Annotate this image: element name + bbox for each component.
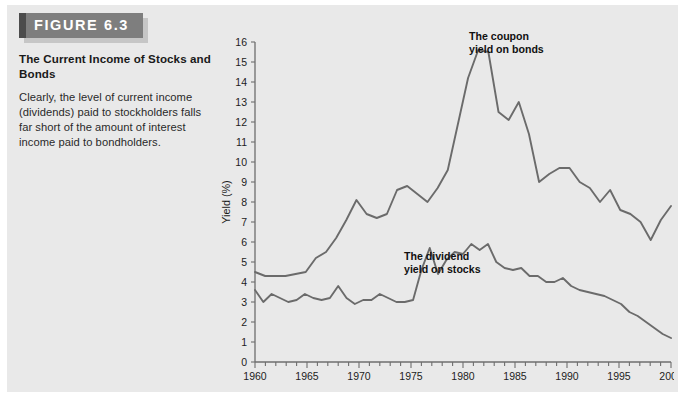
y-tick-label: 11 <box>236 136 247 148</box>
y-tick-label: 3 <box>241 296 247 308</box>
figure-number-banner: FIGURE 6.3 <box>19 13 147 40</box>
svg-text:yield on bonds: yield on bonds <box>469 43 544 55</box>
figure-description: Clearly, the level of current income (di… <box>19 90 217 150</box>
figure-title: The Current Income of Stocks and Bonds <box>19 51 217 81</box>
figure-number-label: FIGURE 6.3 <box>34 17 129 33</box>
y-tick-label: 4 <box>241 276 247 288</box>
y-tick-label: 10 <box>235 156 247 168</box>
svg-text:yield on stocks: yield on stocks <box>404 263 481 275</box>
bond-annotation: The coupon yield on bonds <box>469 30 544 55</box>
x-axis-title: Year <box>452 386 474 387</box>
y-axis: 012345678910111213141516 <box>235 36 255 368</box>
y-tick-label: 0 <box>241 356 247 368</box>
bond-yield-line <box>255 50 671 276</box>
x-tick-label: 1975 <box>399 370 423 382</box>
x-tick-label: 1970 <box>347 370 371 382</box>
figure-caption-block: FIGURE 6.3 The Current Income of Stocks … <box>19 13 217 150</box>
y-tick-label: 9 <box>241 176 247 188</box>
figure-panel: FIGURE 6.3 The Current Income of Stocks … <box>7 5 678 392</box>
figure-banner-accent-bar <box>19 13 26 38</box>
y-tick-label: 7 <box>241 216 247 228</box>
svg-text:The dividend: The dividend <box>404 250 469 262</box>
x-tick-label: 1980 <box>451 370 475 382</box>
y-tick-label: 6 <box>241 236 247 248</box>
x-tick-label: 2000 <box>659 370 674 382</box>
y-tick-label: 15 <box>235 56 247 68</box>
y-tick-label: 13 <box>235 96 247 108</box>
y-tick-label: 2 <box>241 316 247 328</box>
x-tick-label: 1990 <box>555 370 579 382</box>
y-tick-label: 16 <box>235 36 247 48</box>
y-tick-label: 8 <box>241 196 247 208</box>
x-tick-label: 1965 <box>295 370 319 382</box>
x-axis: 196019651970197519801985199019952000 <box>243 362 674 382</box>
chart-area: 012345678910111213141516 196019651970197… <box>219 15 674 387</box>
x-tick-label: 1985 <box>503 370 527 382</box>
x-tick-label: 1995 <box>607 370 631 382</box>
y-axis-title: Yield (%) <box>220 180 232 223</box>
y-tick-label: 14 <box>235 76 247 88</box>
y-tick-label: 5 <box>241 256 247 268</box>
svg-text:The coupon: The coupon <box>469 30 529 42</box>
y-tick-label: 12 <box>235 116 247 128</box>
figure-banner-fill: FIGURE 6.3 <box>19 13 143 38</box>
dividend-annotation: The dividend yield on stocks <box>404 250 481 275</box>
y-tick-label: 1 <box>241 336 247 348</box>
yield-line-chart: 012345678910111213141516 196019651970197… <box>219 15 674 387</box>
x-tick-label: 1960 <box>243 370 267 382</box>
